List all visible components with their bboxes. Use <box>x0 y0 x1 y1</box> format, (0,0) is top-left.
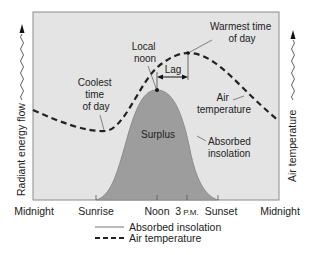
diagram-canvas: Local noon Warmest time of day Coolest t… <box>0 0 314 255</box>
ylabel-radiant-energy-flow: Radiant energy flow <box>15 103 27 196</box>
right-wavy-arrow-icon <box>292 40 295 100</box>
xlabel-noon: Noon <box>144 205 169 217</box>
label-lag: Lag <box>165 64 182 75</box>
xlabel-sunrise: Sunrise <box>78 205 114 217</box>
legend-label-air-temperature: Air temperature <box>129 232 202 244</box>
label-local-noon: Local noon <box>132 41 159 64</box>
xlabel-midnight-end: Midnight <box>260 205 300 217</box>
right-arrowhead-icon <box>291 30 296 39</box>
xlabel-midnight-start: Midnight <box>14 205 54 217</box>
xlabel-3pm: 3P.M. <box>175 205 198 217</box>
label-surplus: Surplus <box>141 129 175 140</box>
left-arrowhead-icon <box>20 24 25 33</box>
xlabel-sunset: Sunset <box>205 205 238 217</box>
ylabel-air-temperature: Air temperature <box>286 109 298 182</box>
left-wavy-arrow-icon <box>21 34 24 100</box>
label-absorbed-insolation: Absorbed insolation <box>208 136 254 159</box>
